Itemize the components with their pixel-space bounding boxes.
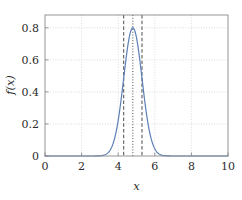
y-tick-label: 0 xyxy=(32,150,39,163)
x-tick-label: 6 xyxy=(151,160,158,173)
y-axis-title: f(x) xyxy=(3,75,17,96)
y-tick-label: 0.2 xyxy=(22,118,40,131)
y-axis-tick-labels: 00.20.40.60.8 xyxy=(22,22,40,163)
y-tick-label: 0.4 xyxy=(22,86,40,99)
x-tick-label: 2 xyxy=(78,160,85,173)
x-axis-tick-labels: 0246810 xyxy=(42,160,236,173)
x-axis-title: x xyxy=(133,179,140,193)
gaussian-density-chart: 0246810 00.20.40.60.8 x f(x) xyxy=(0,0,242,200)
y-tick-label: 0.6 xyxy=(22,54,40,67)
x-tick-label: 0 xyxy=(42,160,49,173)
figure-container: 0246810 00.20.40.60.8 x f(x) xyxy=(0,0,242,200)
x-tick-label: 8 xyxy=(188,160,195,173)
x-tick-label: 4 xyxy=(115,160,122,173)
x-tick-label: 10 xyxy=(221,160,235,173)
y-tick-label: 0.8 xyxy=(22,22,40,35)
